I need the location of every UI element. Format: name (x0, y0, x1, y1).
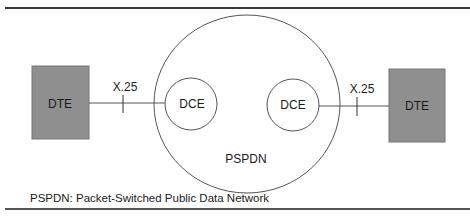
link-right-label: X.25 (350, 82, 375, 96)
dte-right-label: DTE (405, 99, 429, 113)
x25-network-diagram: DTE DTE DCE DCE X.25 X.25 PSPDN (0, 0, 470, 219)
dce-left-label: DCE (179, 97, 204, 111)
dte-left-label: DTE (48, 97, 72, 111)
bottom-rule (5, 208, 470, 210)
link-left-label: X.25 (113, 80, 138, 94)
pspdn-label: PSPDN (225, 152, 266, 166)
diagram-caption: PSPDN: Packet-Switched Public Data Netwo… (30, 192, 269, 204)
dce-right-label: DCE (280, 98, 305, 112)
